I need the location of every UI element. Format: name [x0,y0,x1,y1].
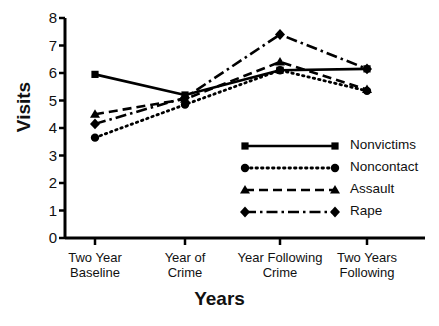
x-axis-tick-label-line: Two Years [312,250,422,265]
y-axis-tick-label: 8 [31,9,57,26]
x-axis-title: Years [0,288,439,310]
x-axis-tick-label-line: Following [312,265,422,280]
chart-figure: Visits Years 012345678 Two YearBaselineY… [0,0,439,326]
x-axis-tick-label-line: Crime [130,265,240,280]
legend-entry-noncontact: Noncontact [350,159,418,174]
legend-entry-nonvictims: Nonvictims [350,137,416,152]
y-axis-tick-label: 2 [31,174,57,191]
y-axis-tick-label: 4 [31,119,57,136]
legend-entry-rape: Rape [350,203,382,218]
legend-entry-assault: Assault [350,181,394,196]
y-axis-tick-label: 1 [31,202,57,219]
y-axis-tick-label: 7 [31,37,57,54]
chart-series [90,29,372,142]
x-axis-tick-label: Two YearsFollowing [312,250,422,280]
y-axis-tick-label: 6 [31,64,57,81]
y-axis-tick-label: 3 [31,147,57,164]
chart-legend-symbols [240,142,340,217]
x-axis-tick-label: Year ofCrime [130,250,240,280]
x-axis-tick-label-line: Year of [130,250,240,265]
y-axis-tick-label: 0 [31,229,57,246]
y-axis-tick-label: 5 [31,92,57,109]
